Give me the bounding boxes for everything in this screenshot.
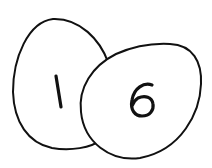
- eggs-illustration: 1 6: [0, 0, 212, 168]
